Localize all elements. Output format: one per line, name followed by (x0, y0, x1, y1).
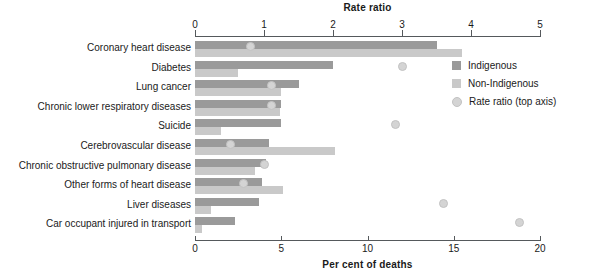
bottom-axis-title: Per cent of deaths (195, 259, 540, 270)
top-axis-tick (471, 30, 472, 37)
chart-legend: IndigenousNon-IndigenousRate ratio (top … (452, 58, 556, 112)
top-axis-tick-label: 5 (527, 19, 553, 30)
bar-non-indigenous (195, 127, 221, 135)
bar-indigenous (195, 41, 437, 49)
bar-non-indigenous (195, 49, 462, 57)
rate-ratio-marker (267, 101, 276, 110)
category-label: Chronic lower respiratory diseases (0, 101, 191, 112)
top-axis-line (195, 36, 541, 37)
bar-indigenous (195, 159, 266, 167)
bar-indigenous (195, 217, 235, 225)
top-axis-title: Rate ratio (195, 2, 540, 13)
top-axis-tick (264, 30, 265, 37)
category-label: Other forms of heart disease (0, 179, 191, 190)
category-label: Suicide (0, 120, 191, 131)
bar-non-indigenous (195, 206, 211, 214)
category-label: Car occupant injured in transport (0, 218, 191, 229)
bar-non-indigenous (195, 167, 255, 175)
rate-ratio-marker (515, 218, 524, 227)
legend-item: Indigenous (452, 58, 556, 73)
rate-ratio-marker (391, 120, 400, 129)
category-label: Diabetes (0, 62, 191, 73)
bar-non-indigenous (195, 108, 280, 116)
bar-indigenous (195, 178, 262, 186)
rate-ratio-marker (439, 199, 448, 208)
bottom-axis-tick-label: 10 (353, 243, 383, 254)
top-axis-tick (195, 30, 196, 37)
category-label: Liver diseases (0, 199, 191, 210)
bottom-axis-tick-label: 5 (266, 243, 296, 254)
bar-chart: Rate ratio 012345 05101520 Per cent of d… (0, 0, 602, 280)
bottom-axis-tick (195, 236, 196, 241)
bottom-axis-tick (540, 236, 541, 241)
category-label: Cerebrovascular disease (0, 140, 191, 151)
top-axis-tick-label: 4 (458, 19, 484, 30)
bottom-axis-tick-label: 15 (439, 243, 469, 254)
legend-square-icon (452, 79, 461, 88)
bar-indigenous (195, 119, 281, 127)
category-label: Lung cancer (0, 81, 191, 92)
top-axis-tick-label: 3 (389, 19, 415, 30)
legend-circle-icon (452, 97, 462, 107)
rate-ratio-marker (226, 140, 235, 149)
top-axis-tick-label: 1 (251, 19, 277, 30)
legend-item: Rate ratio (top axis) (452, 94, 556, 109)
legend-square-icon (452, 61, 461, 70)
bottom-axis-tick (454, 236, 455, 241)
legend-item: Non-Indigenous (452, 76, 556, 91)
legend-label: Non-Indigenous (468, 78, 539, 89)
rate-ratio-marker (260, 160, 269, 169)
category-label: Coronary heart disease (0, 42, 191, 53)
bar-indigenous (195, 80, 299, 88)
top-axis-tick (333, 30, 334, 37)
top-axis-tick (402, 30, 403, 37)
bottom-axis-tick (368, 236, 369, 241)
rate-ratio-marker (398, 62, 407, 71)
bar-non-indigenous (195, 186, 283, 194)
bar-non-indigenous (195, 69, 238, 77)
legend-label: Indigenous (468, 60, 517, 71)
bottom-axis-tick (281, 236, 282, 241)
bottom-axis-tick-label: 0 (180, 243, 210, 254)
bottom-axis-tick-label: 20 (525, 243, 555, 254)
bar-non-indigenous (195, 147, 335, 155)
bar-non-indigenous (195, 225, 202, 233)
top-axis-tick-label: 2 (320, 19, 346, 30)
top-axis-tick (540, 30, 541, 37)
bar-indigenous (195, 198, 259, 206)
legend-label: Rate ratio (top axis) (469, 96, 556, 107)
bar-indigenous (195, 61, 333, 69)
category-label: Chronic obstructive pulmonary disease (0, 160, 191, 171)
top-axis-tick-label: 0 (182, 19, 208, 30)
